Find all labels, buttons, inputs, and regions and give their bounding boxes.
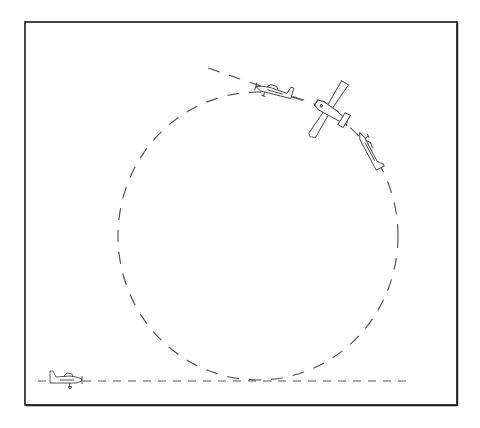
loop-maneuver-diagram — [0, 0, 480, 428]
diagram-frame — [25, 22, 457, 405]
